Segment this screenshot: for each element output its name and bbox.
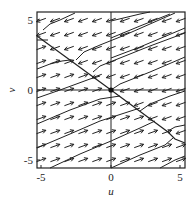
equilibrium-point xyxy=(108,87,113,92)
y-tick-label: 0 xyxy=(28,84,34,96)
x-tick-label: 5 xyxy=(177,171,183,183)
x-tick-label: -5 xyxy=(36,171,46,183)
x-tick-label: 0 xyxy=(108,171,114,183)
trajectories-upper xyxy=(43,12,185,131)
y-tick-label: 5 xyxy=(28,14,34,26)
phase-portrait-chart: -5 0 5 5 0 -5 u v xyxy=(0,0,194,204)
y-axis-label: v xyxy=(5,87,17,92)
y-tick-label: -5 xyxy=(24,154,34,166)
x-axis-label: u xyxy=(108,185,114,197)
